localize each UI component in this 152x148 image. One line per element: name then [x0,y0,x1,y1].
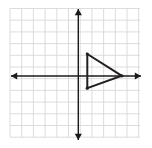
coordinate-plane: Coordinate plane with a right-pointing t… [0,0,152,148]
triangle-vertex-right-apex [120,74,123,77]
triangle-vertex-bottom-left [86,87,89,90]
triangle-vertex-top-left [86,52,89,55]
figure-root: Coordinate plane with a right-pointing t… [0,0,152,148]
